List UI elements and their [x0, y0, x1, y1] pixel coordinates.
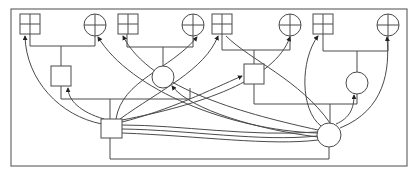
top-row	[20, 14, 399, 36]
mid-square-node-2[interactable]	[244, 64, 264, 84]
crossed-circle-node-3[interactable]	[279, 14, 301, 36]
mid-square-node-1[interactable]	[51, 66, 71, 86]
network-diagram	[0, 0, 420, 174]
crossed-circle-node-4[interactable]	[377, 14, 399, 36]
crossed-circle-node-1[interactable]	[84, 14, 106, 36]
crossed-circle-node-2[interactable]	[182, 14, 204, 36]
mid-circle-node-2[interactable]	[346, 72, 368, 94]
grid-node-1[interactable]	[20, 14, 40, 34]
grid-node-4[interactable]	[313, 14, 333, 34]
mid-circle-node-1[interactable]	[152, 66, 174, 88]
hub-circle-node[interactable]	[317, 123, 341, 147]
hub-square-node[interactable]	[101, 119, 122, 138]
grid-node-3[interactable]	[212, 14, 232, 34]
mid-row	[51, 64, 368, 94]
grid-node-2[interactable]	[118, 14, 138, 34]
